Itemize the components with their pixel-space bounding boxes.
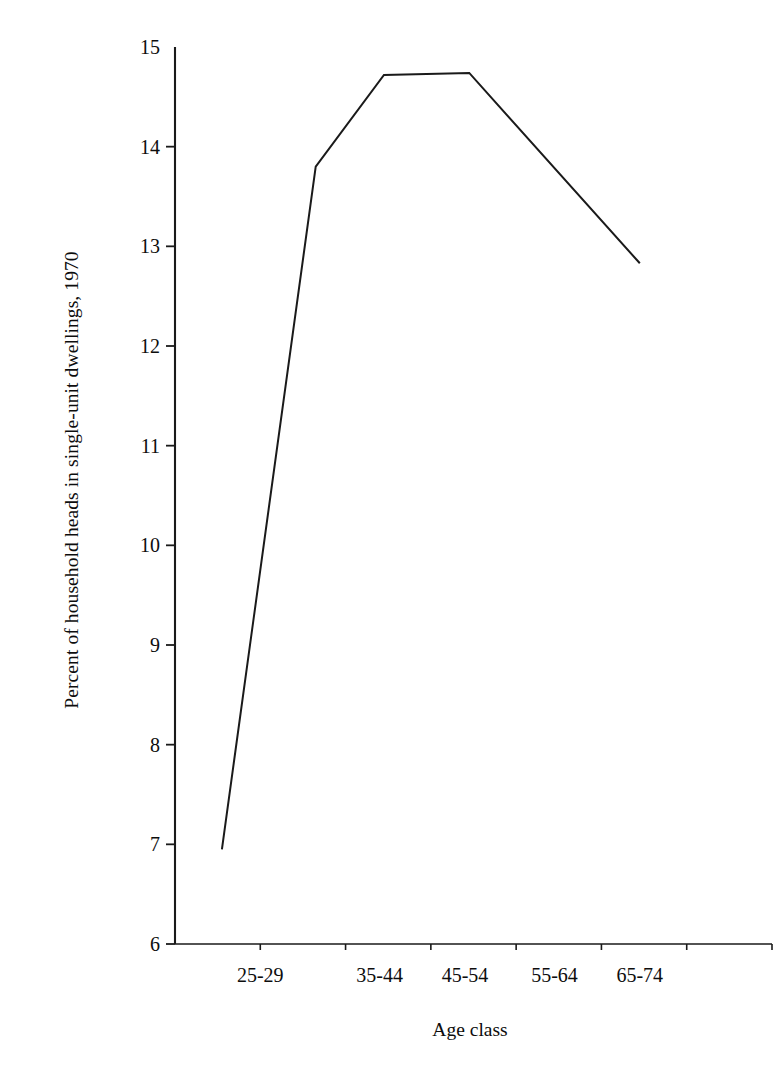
y-axis-tick-label: 13: [114, 235, 160, 258]
data-series-line: [222, 73, 640, 849]
y-axis-tick-label: 9: [114, 634, 160, 657]
y-axis-tick-label: 6: [114, 933, 160, 956]
y-axis-tick-label: 15: [114, 36, 160, 59]
y-axis-tick-label: 10: [114, 534, 160, 557]
x-axis-tick-label: 65-74: [616, 964, 663, 987]
x-axis-tick-label: 45-54: [442, 964, 489, 987]
y-axis-tick-label: 11: [114, 434, 160, 457]
plot-area: 6789101112131415 25-2935-4445-5455-6465-…: [0, 0, 781, 1069]
chart-figure: Percent of household heads in single-uni…: [0, 0, 781, 1069]
y-axis-tick-label: 8: [114, 733, 160, 756]
y-axis-tick-label: 12: [114, 335, 160, 358]
x-axis-ticks: [175, 944, 772, 950]
x-axis-tick-label: 55-64: [531, 964, 578, 987]
y-axis-ticks: [166, 147, 175, 944]
y-axis-tick-label: 14: [114, 135, 160, 158]
y-axis-tick-label: 7: [114, 833, 160, 856]
x-axis-tick-label: 35-44: [356, 964, 403, 987]
x-axis-tick-label: 25-29: [237, 964, 284, 987]
